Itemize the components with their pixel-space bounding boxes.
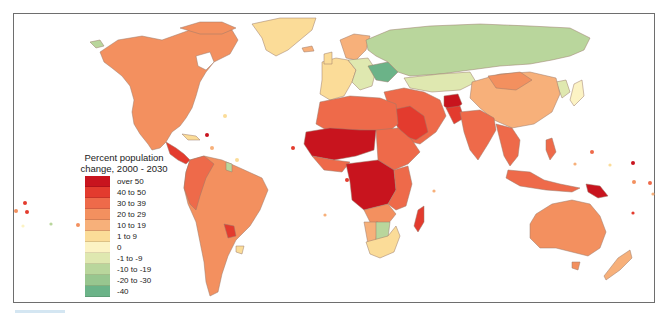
legend-swatch [85, 253, 110, 264]
region-north-africa [316, 96, 398, 132]
bottom-edge-bar [15, 310, 65, 313]
region-australia [530, 200, 606, 256]
legend-swatch [85, 176, 110, 187]
legend-item: 20 to 29 [85, 209, 184, 220]
legend-swatch [85, 209, 110, 220]
legend-item: over 50 [85, 176, 184, 187]
legend-swatch [85, 242, 110, 253]
region-bering-island [90, 40, 104, 48]
region-scandinavia [340, 34, 370, 60]
region-japan [570, 80, 584, 106]
legend-label: 20 to 29 [117, 209, 146, 220]
region-caribbean [182, 134, 200, 140]
region-papua-new-guinea [586, 184, 608, 198]
region-india [460, 110, 496, 160]
legend-item: -40 [85, 286, 184, 297]
legend-swatch [85, 264, 110, 275]
region-russia [366, 24, 590, 76]
legend-title-line2: change, 2000 - 2030 [74, 163, 174, 174]
region-uk [324, 52, 332, 64]
region-iceland [302, 46, 314, 52]
legend-item: -20 to -30 [85, 275, 184, 286]
legend-label: 1 to 9 [117, 231, 137, 242]
region-southeast-asia [496, 124, 520, 166]
region-western-europe [320, 58, 356, 100]
legend-rows: over 50 40 to 50 30 to 39 20 to 29 10 to… [85, 176, 184, 297]
legend-item: -10 to -19 [85, 264, 184, 275]
legend: Percent population change, 2000 - 2030 o… [74, 152, 184, 297]
region-madagascar [414, 206, 424, 232]
legend-swatch [85, 286, 110, 297]
legend-swatch [85, 275, 110, 286]
legend-label: 10 to 19 [117, 220, 146, 231]
legend-item: 10 to 19 [85, 220, 184, 231]
legend-label: 0 [117, 242, 121, 253]
legend-swatch [85, 220, 110, 231]
region-guianas [226, 162, 232, 172]
legend-label: -1 to -9 [117, 253, 142, 264]
legend-swatch [85, 187, 110, 198]
legend-item: 40 to 50 [85, 187, 184, 198]
legend-item: -1 to -9 [85, 253, 184, 264]
region-philippines [546, 138, 556, 160]
legend-title: Percent population change, 2000 - 2030 [74, 152, 174, 174]
legend-label: -10 to -19 [117, 264, 151, 275]
legend-label: -40 [117, 286, 129, 297]
region-uruguay [236, 246, 244, 254]
legend-label: 30 to 39 [117, 198, 146, 209]
legend-item: 1 to 9 [85, 231, 184, 242]
legend-item: 0 [85, 242, 184, 253]
region-indonesia [506, 170, 580, 192]
legend-label: -20 to -30 [117, 275, 151, 286]
region-tasmania [572, 262, 580, 270]
legend-item: 30 to 39 [85, 198, 184, 209]
region-sahel [304, 128, 376, 160]
legend-title-line1: Percent population [74, 152, 174, 163]
region-north-america [100, 26, 238, 150]
legend-label: over 50 [117, 176, 144, 187]
legend-swatch [85, 231, 110, 242]
region-new-zealand [604, 250, 632, 280]
legend-label: 40 to 50 [117, 187, 146, 198]
legend-swatch [85, 198, 110, 209]
region-central-africa [346, 160, 396, 210]
